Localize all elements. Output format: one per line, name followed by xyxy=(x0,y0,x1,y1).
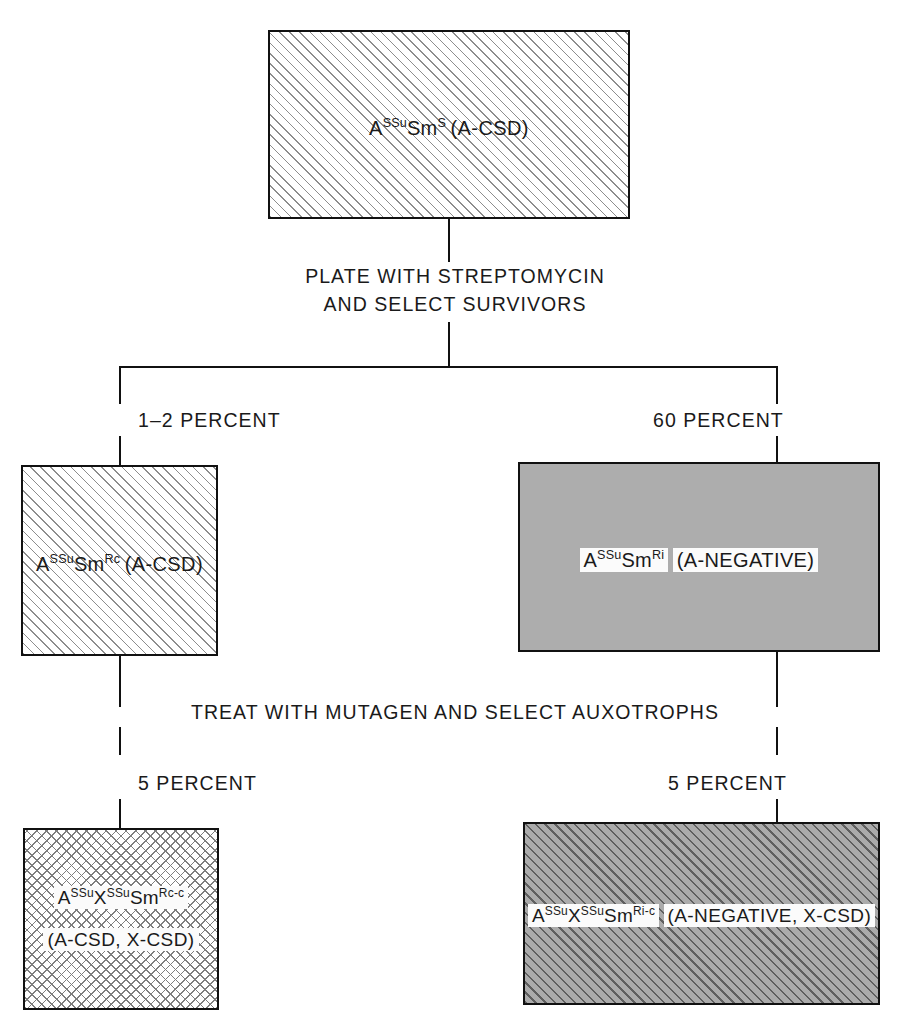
connector-left-branch-upper xyxy=(119,366,121,404)
genotype-superscript-1: SSu xyxy=(71,886,94,900)
connector-left-branch-lower xyxy=(119,436,121,466)
genotype-superscript-2: Rc xyxy=(104,552,120,566)
node-mid-right-box: ASSuSmRi (A-NEGATIVE) xyxy=(518,462,880,652)
connector-right-branch-upper xyxy=(776,366,778,404)
node-mid-right-content: ASSuSmRi (A-NEGATIVE) xyxy=(580,535,819,579)
connector-step2-right-upper xyxy=(776,727,778,755)
genotype-superscript-2: SSu xyxy=(107,886,130,900)
percent-right-branch: 60 PERCENT xyxy=(648,409,789,432)
node-bottom-left-genotype: ASSuXSSuSmRc-c xyxy=(54,880,189,916)
genotype-mid: Sm xyxy=(130,887,159,908)
connector-step2-right-lower xyxy=(776,799,778,823)
node-mid-left-genotype: ASSuSmRc xyxy=(36,545,120,583)
connector-top-to-step1 xyxy=(448,219,450,263)
connector-right-branch-lower xyxy=(776,436,778,464)
genotype-mid: Sm xyxy=(622,549,652,571)
genotype-base: A xyxy=(36,553,50,575)
genotype-x: X xyxy=(568,905,581,926)
genotype-mid: Sm xyxy=(604,905,633,926)
percent-bottom-left: 5 PERCENT xyxy=(133,772,262,795)
genotype-superscript-1: SSu xyxy=(383,116,407,130)
genotype-superscript-1: SSu xyxy=(50,552,74,566)
node-bottom-left-phenotype: (A-CSD, X-CSD) xyxy=(43,922,198,958)
percent-left-branch: 1–2 PERCENT xyxy=(133,409,286,432)
genotype-superscript-3: Ri-c xyxy=(633,904,655,918)
node-bottom-left-box: ASSuXSSuSmRc-c (A-CSD, X-CSD) xyxy=(23,828,219,1010)
step1-label: PLATE WITH STREPTOMYCIN AND SELECT SURVI… xyxy=(281,262,629,319)
genotype-base: A xyxy=(584,549,598,571)
node-bottom-right-genotype: ASSuXSSuSmRi-c xyxy=(528,898,659,934)
percent-bottom-right: 5 PERCENT xyxy=(663,772,792,795)
genotype-mid: Sm xyxy=(74,553,104,575)
genotype-superscript-2: S xyxy=(437,116,446,130)
node-mid-left-box: ASSuSmRc (A-CSD) xyxy=(21,465,218,656)
node-bottom-right-phenotype: (A-NEGATIVE, X-CSD) xyxy=(664,898,876,934)
connector-mid-right-to-step2 xyxy=(776,652,778,707)
node-top-genotype: ASSuSmS xyxy=(369,109,446,147)
genotype-base: A xyxy=(532,905,545,926)
branch-horizontal-bar xyxy=(119,366,778,368)
step2-label: TREAT WITH MUTAGEN AND SELECT AUXOTROPHS xyxy=(178,698,732,726)
node-top-content: ASSuSmS (A-CSD) xyxy=(369,103,529,147)
diagram-canvas: ASSuSmS (A-CSD) PLATE WITH STREPTOMYCIN … xyxy=(0,0,902,1031)
genotype-superscript-2: Ri xyxy=(652,548,664,562)
node-bottom-right-content: ASSuXSSuSmRi-c (A-NEGATIVE, X-CSD) xyxy=(528,892,875,934)
node-top-phenotype: (A-CSD) xyxy=(451,109,529,147)
genotype-superscript-2: SSu xyxy=(581,904,604,918)
node-bottom-right-box: ASSuXSSuSmRi-c (A-NEGATIVE, X-CSD) xyxy=(523,822,880,1005)
connector-step2-left-lower xyxy=(119,799,121,829)
genotype-base: A xyxy=(58,887,71,908)
connector-step2-left-upper xyxy=(119,727,121,755)
connector-mid-left-to-step2 xyxy=(119,656,121,707)
node-top-box: ASSuSmS (A-CSD) xyxy=(268,30,630,219)
connector-step1-to-branch xyxy=(448,322,450,367)
node-mid-left-phenotype: (A-CSD) xyxy=(125,545,203,583)
node-mid-right-phenotype: (A-NEGATIVE) xyxy=(673,541,819,579)
genotype-superscript-3: Rc-c xyxy=(159,886,184,900)
genotype-superscript-1: SSu xyxy=(597,548,621,562)
node-bottom-left-content: ASSuXSSuSmRc-c (A-CSD, X-CSD) xyxy=(25,880,217,958)
genotype-base: A xyxy=(369,117,383,139)
genotype-superscript-1: SSu xyxy=(545,904,568,918)
genotype-mid: Sm xyxy=(407,117,437,139)
node-mid-left-content: ASSuSmRc (A-CSD) xyxy=(36,539,203,583)
node-mid-right-genotype: ASSuSmRi xyxy=(580,541,669,579)
genotype-x: X xyxy=(94,887,107,908)
